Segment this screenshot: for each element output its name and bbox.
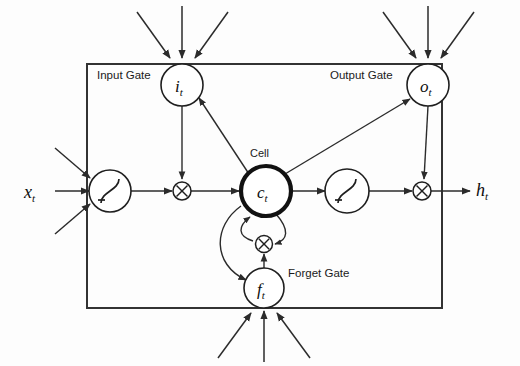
forget-gate-label: Forget Gate [288,267,349,279]
output-symbol: ht [476,180,489,202]
wire-cell-to-input-gate [199,98,249,174]
input-incoming-arrow-upper [55,148,90,178]
input-incoming-arrow-lower [55,204,90,234]
lstm-diagram-svg: Input Gate Output Gate Forget Gate Cell … [0,0,520,366]
wire-cell-to-output-gate [285,99,410,174]
output-gate-symbol-base: o [420,77,429,96]
forget-gate-incoming-arrow-right [277,313,310,358]
wire-cell-to-forget-multiply [275,214,286,244]
wire-output-gate-to-output-multiply [424,106,428,179]
cell-node [241,166,291,216]
input-symbol-base: x [23,182,32,202]
output-gate-incoming-arrow-right [441,12,474,58]
wire-forget-multiply-to-cell [241,217,253,241]
lstm-diagram: Input Gate Output Gate Forget Gate Cell … [0,0,520,366]
output-gate-incoming-arrow-left [383,12,416,58]
input-symbol-sub: t [32,192,36,204]
input-gate-incoming-arrow-right [195,12,228,58]
cell-label: Cell [250,147,269,159]
wire-cell-to-forget-gate [220,206,246,280]
output-symbol-sub: t [485,190,489,202]
input-gate-node [161,64,203,106]
forget-gate-node [244,268,284,308]
input-symbol: xt [23,182,36,204]
output-symbol-base: h [476,180,485,200]
output-gate-label: Output Gate [330,69,393,81]
input-gate-label: Input Gate [97,69,151,81]
input-gate-incoming-arrow-left [137,12,170,58]
forget-gate-incoming-arrow-left [218,313,251,358]
